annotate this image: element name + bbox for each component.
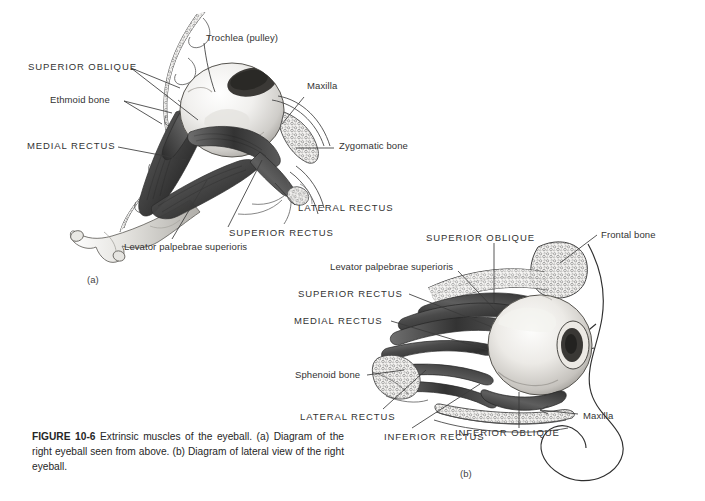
pupil-b — [565, 334, 577, 354]
label-ethmoid-bone-a: Ethmoid bone — [50, 95, 110, 105]
figure-illustration — [0, 0, 705, 501]
label-superior-oblique-b: SUPERIOR OBLIQUE — [426, 233, 535, 243]
label-frontal-bone-b: Frontal bone — [601, 230, 656, 240]
label-inferior-oblique-b: INFERIOR OBLIQUE — [455, 428, 560, 438]
label-superior-rectus-b: SUPERIOR RECTUS — [298, 289, 403, 299]
figure-caption: FIGURE 10-6 Extrinsic muscles of the eye… — [32, 430, 344, 474]
label-superior-oblique-a: SUPERIOR OBLIQUE — [28, 62, 137, 72]
panel-a-artwork — [69, 12, 334, 263]
label-maxilla-b: Maxilla — [583, 411, 613, 421]
label-lateral-rectus-b: LATERAL RECTUS — [300, 412, 395, 422]
panel-b-id: (b) — [460, 468, 472, 479]
label-medial-rectus-a: MEDIAL RECTUS — [27, 141, 115, 151]
label-sphenoid-bone-b: Sphenoid bone — [295, 370, 360, 380]
label-superior-rectus-a: SUPERIOR RECTUS — [229, 228, 334, 238]
sphenoid-bone-b — [372, 355, 428, 402]
frontal-bone-b — [531, 242, 588, 298]
label-zygomatic-bone-a: Zygomatic bone — [339, 141, 408, 151]
label-levator-palpebrae-a: Levator palpebrae superioris — [124, 242, 247, 252]
label-maxilla-a: Maxilla — [307, 81, 337, 91]
eyeball-b — [488, 294, 592, 395]
figure-number: FIGURE 10-6 — [32, 431, 95, 442]
label-levator-palpebrae-b: Levator palpebrae superioris — [330, 262, 453, 272]
label-lateral-rectus-a: LATERAL RECTUS — [298, 203, 393, 213]
label-trochlea-a: Trochlea (pulley) — [206, 33, 278, 43]
label-medial-rectus-b: MEDIAL RECTUS — [294, 316, 382, 326]
panel-a-id: (a) — [87, 274, 99, 285]
